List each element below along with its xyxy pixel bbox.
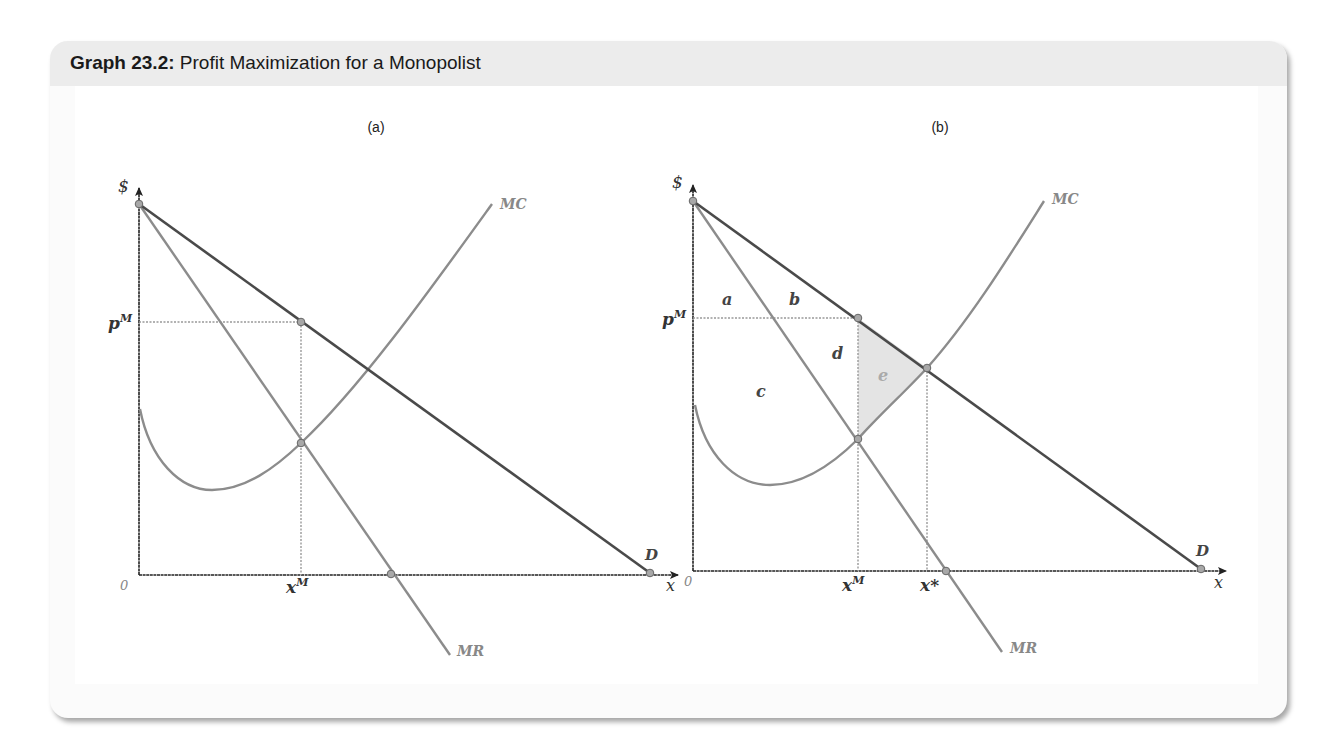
demand-curve — [139, 204, 650, 573]
origin-label: 0 — [120, 578, 128, 593]
panel-b: (b) $ x 0 a b c d e pM xM x* — [662, 119, 1226, 656]
quantity-label: xM — [841, 574, 865, 595]
intercept-point — [689, 197, 697, 205]
mr-mc-point — [297, 439, 305, 447]
demand-intercept-point — [646, 569, 654, 577]
mc-label: MC — [499, 196, 527, 212]
mr-label: MR — [456, 643, 484, 659]
demand-intercept-point — [1197, 565, 1205, 573]
mr-intercept-point — [387, 570, 395, 578]
price-label: pM — [662, 308, 687, 329]
demand-label: D — [1195, 542, 1209, 560]
price-label: pM — [108, 312, 133, 333]
efficient-quantity-label: x* — [919, 575, 939, 595]
mr-label: MR — [1009, 640, 1037, 656]
x-axis-label: x — [666, 576, 675, 595]
efficient-point — [923, 364, 931, 372]
y-axis-label: $ — [672, 172, 683, 192]
mc-label: MC — [1051, 191, 1079, 207]
area-b-label: b — [789, 290, 800, 309]
panel-b-label: (b) — [931, 119, 948, 135]
demand-label: D — [644, 546, 658, 564]
area-d-label: d — [832, 344, 843, 363]
area-a-label: a — [722, 290, 732, 309]
intercept-point — [135, 200, 143, 208]
panel-a: (a) $ x 0 pM xM MC MR D — [108, 119, 678, 659]
monopoly-graphs: (a) $ x 0 pM xM MC MR D (b) — [0, 0, 1320, 753]
mr-mc-point — [854, 435, 862, 443]
y-axis-label: $ — [118, 176, 129, 196]
area-e-label: e — [878, 366, 888, 385]
panel-a-label: (a) — [367, 119, 384, 135]
mr-intercept-point — [942, 567, 950, 575]
monopoly-price-point — [854, 314, 862, 322]
monopoly-price-point — [297, 318, 305, 326]
area-c-label: c — [756, 382, 766, 401]
demand-curve — [693, 201, 1201, 569]
quantity-label: xM — [285, 576, 309, 597]
origin-label: 0 — [684, 574, 692, 589]
x-axis-label: x — [1214, 573, 1223, 592]
mc-curve — [140, 204, 492, 490]
